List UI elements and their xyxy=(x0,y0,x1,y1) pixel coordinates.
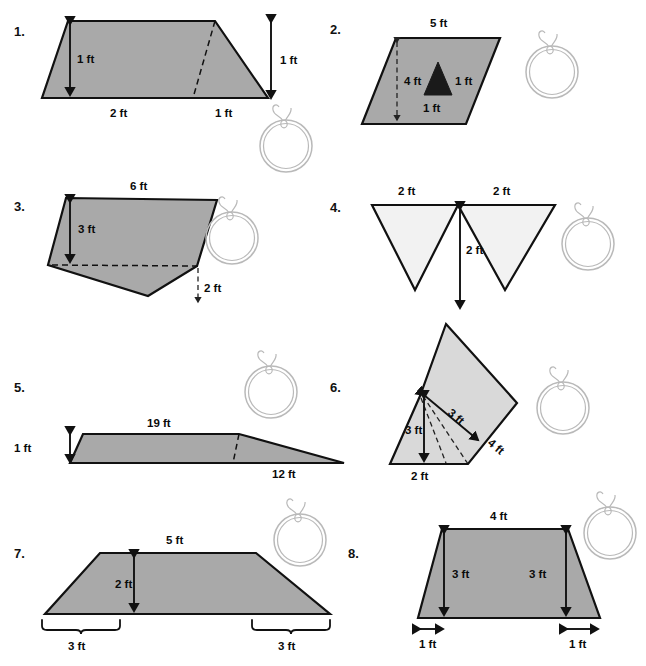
pencil-ring-icon xyxy=(526,31,578,98)
shape-trapezoid-8 xyxy=(418,529,600,618)
label-top-8: 4 ft xyxy=(490,510,507,522)
label-offset-left-8: 1 ft xyxy=(419,638,436,650)
problem-number: 8. xyxy=(348,546,359,561)
label-height-2: 4 ft xyxy=(404,75,421,87)
problem-number: 4. xyxy=(330,200,341,215)
label-top-5: 19 ft xyxy=(147,417,171,429)
problem-number: 3. xyxy=(14,199,25,214)
label-slope-5: 12 ft xyxy=(272,468,296,480)
label-top-3: 6 ft xyxy=(130,180,147,192)
shape-quadrilateral-3 xyxy=(48,198,217,296)
label-height-6: 3 ft xyxy=(405,424,422,436)
pencil-ring-icon xyxy=(537,367,589,434)
label-height-inner-1: 1 ft xyxy=(77,53,94,65)
problem-7: 7. 5 ft 2 ft 3 ft 3 ft xyxy=(14,499,330,652)
pencil-ring-icon xyxy=(245,351,297,418)
shape-trapezoid-1 xyxy=(42,21,268,98)
label-base-left-1: 2 ft xyxy=(110,107,127,119)
pencil-ring-icon xyxy=(260,105,312,172)
worksheet-page: 1. 1 ft 1 ft 2 ft 1 ft 2. 4 ft 5 ft 1 ft… xyxy=(0,0,646,666)
problem-3: 3. 3 ft 2 ft 6 ft xyxy=(14,180,258,302)
problem-4: 4. 2 ft 2 ft 2 ft xyxy=(330,185,614,308)
label-base-right-1: 1 ft xyxy=(215,107,232,119)
label-height-4: 2 ft xyxy=(466,244,483,256)
dashed-horizontal-3 xyxy=(52,265,199,266)
label-offset-right-8: 1 ft xyxy=(569,638,586,650)
label-height-right-8: 3 ft xyxy=(529,568,546,580)
label-top-2: 5 ft xyxy=(430,17,447,29)
pencil-ring-icon xyxy=(584,492,636,559)
label-base-right-4: 2 ft xyxy=(493,185,510,197)
pencil-ring-icon xyxy=(562,203,614,270)
shape-ramp-5 xyxy=(70,434,344,463)
label-base-left-4: 2 ft xyxy=(398,185,415,197)
problem-number: 1. xyxy=(14,24,25,39)
label-height-lower-3: 2 ft xyxy=(204,282,221,294)
label-base-6: 2 ft xyxy=(411,470,428,482)
label-triangle-base-2: 1 ft xyxy=(423,102,440,114)
problem-number: 2. xyxy=(330,22,341,37)
worksheet-canvas: 1. 1 ft 1 ft 2 ft 1 ft 2. 4 ft 5 ft 1 ft… xyxy=(0,0,646,666)
brace-left-7 xyxy=(42,620,120,634)
label-height-left-8: 3 ft xyxy=(452,568,469,580)
label-height-upper-3: 3 ft xyxy=(78,223,95,235)
problem-2: 2. 4 ft 5 ft 1 ft 1 ft xyxy=(330,17,578,124)
label-height-5: 1 ft xyxy=(14,442,31,454)
problem-number: 7. xyxy=(14,546,25,561)
brace-right-7 xyxy=(252,620,330,634)
problem-6: 6. 3 ft 3 ft 4 ft 2 ft xyxy=(330,324,589,482)
problem-5: 5. 1 ft 19 ft 12 ft xyxy=(14,351,344,480)
label-height-outer-1: 1 ft xyxy=(280,54,297,66)
label-top-7: 5 ft xyxy=(166,534,183,546)
problem-1: 1. 1 ft 1 ft 2 ft 1 ft xyxy=(14,21,312,172)
problem-number: 6. xyxy=(330,380,341,395)
shape-triangle-left-4 xyxy=(372,205,458,290)
problem-8: 8. 4 ft 3 ft 3 ft 1 ft 1 ft xyxy=(348,492,636,650)
label-leg-right-7: 3 ft xyxy=(278,640,295,652)
label-triangle-height-2: 1 ft xyxy=(455,75,472,87)
label-leg-left-7: 3 ft xyxy=(68,640,85,652)
label-height-7: 2 ft xyxy=(115,578,132,590)
problem-number: 5. xyxy=(14,380,25,395)
pencil-ring-icon xyxy=(274,499,326,566)
